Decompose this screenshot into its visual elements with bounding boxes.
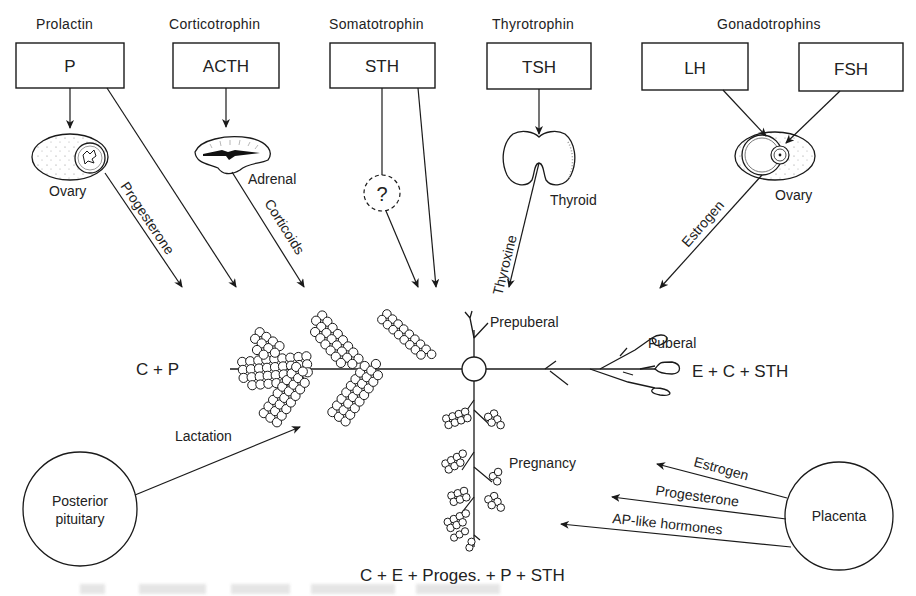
formula-puberal: E + C + STH xyxy=(692,362,788,381)
progesterone-label: Progesterone xyxy=(118,179,178,258)
arrow-fsh-to-ovary xyxy=(786,91,840,143)
placenta-node: Placenta xyxy=(785,462,893,570)
box-fsh-label: FSH xyxy=(834,60,868,79)
adrenal-icon xyxy=(195,137,270,174)
arrow-unknown-to-gland xyxy=(386,211,418,287)
hormone-arrows xyxy=(70,88,840,288)
ovary-right-label: Ovary xyxy=(775,187,812,203)
formula-pregnancy: C + E + Proges. + P + STH xyxy=(360,566,565,585)
box-acth: ACTH xyxy=(173,43,279,88)
ovary-left-icon xyxy=(32,134,108,180)
arrow-sth-to-gland xyxy=(418,88,436,287)
arrow-estrogen xyxy=(660,175,762,288)
box-p: P xyxy=(16,43,124,88)
thyroid-label: Thyroid xyxy=(550,192,597,208)
header-prolactin: Prolactin xyxy=(36,16,93,32)
formula-lactation: C + P xyxy=(136,360,179,379)
box-tsh-label: TSH xyxy=(522,58,556,77)
box-sth-label: STH xyxy=(365,57,399,76)
ovary-left-label: Ovary xyxy=(49,183,86,199)
mammary-hormone-diagram: Prolactin Corticotrophin Somatotrophin T… xyxy=(0,0,916,596)
unknown-organ-label: ? xyxy=(376,183,387,205)
pregnancy-label: Pregnancy xyxy=(509,455,576,471)
corticoids-label: Corticoids xyxy=(261,196,308,257)
lactation-label: Lactation xyxy=(175,428,232,444)
cropped-caption xyxy=(80,584,500,594)
box-sth: STH xyxy=(330,43,435,88)
thyroid-icon xyxy=(503,131,575,184)
puberal-label: Puberal xyxy=(648,335,696,351)
estrogen-label: Estrogen xyxy=(678,197,727,250)
unknown-organ-icon: ? xyxy=(364,175,400,211)
box-fsh: FSH xyxy=(799,43,903,91)
placenta-estrogen-label: Estrogen xyxy=(692,453,750,483)
header-thyrotrophin: Thyrotrophin xyxy=(492,16,574,32)
posterior-pituitary-line1: Posterior xyxy=(52,493,108,509)
header-somatotrophin: Somatotrophin xyxy=(329,16,424,32)
placenta-progesterone-label: Progesterone xyxy=(655,482,741,510)
adrenal-label: Adrenal xyxy=(248,171,296,187)
ovary-right-icon xyxy=(735,132,815,180)
arrow-lh-to-ovary xyxy=(723,90,766,136)
thyroxine-label: Thyroxine xyxy=(489,233,519,297)
box-acth-label: ACTH xyxy=(203,57,249,76)
posterior-pituitary-node: Posterior pituitary xyxy=(23,452,137,566)
arrow-progesterone xyxy=(105,173,182,287)
box-tsh: TSH xyxy=(487,43,591,89)
header-corticotrophin: Corticotrophin xyxy=(169,16,260,32)
prepuberal-label: Prepuberal xyxy=(490,314,559,330)
posterior-pituitary-line2: pituitary xyxy=(55,511,104,527)
box-lh: LH xyxy=(642,43,748,90)
box-lh-label: LH xyxy=(684,59,706,78)
nipple-icon xyxy=(462,357,486,381)
header-gonadotrophins: Gonadotrophins xyxy=(717,16,821,32)
placenta-label: Placenta xyxy=(812,508,867,524)
placenta-ap-label: AP-like hormones xyxy=(612,510,724,537)
box-p-label: P xyxy=(64,57,75,76)
